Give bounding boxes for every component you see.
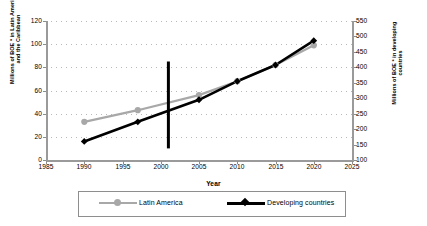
data-point-marker xyxy=(134,118,141,125)
series-line-1 xyxy=(84,41,313,142)
legend-label-developing-countries: Developing countries xyxy=(267,199,334,206)
legend-item-latin-america[interactable]: Latin America xyxy=(99,198,183,207)
legend-key-latin-america xyxy=(99,198,137,207)
chart-container: Millions of BOE * in Latin America and t… xyxy=(0,0,427,226)
data-point-marker xyxy=(81,138,88,145)
data-point-marker xyxy=(81,119,87,125)
chart-legend: Latin America Developing countries xyxy=(78,191,346,217)
legend-item-developing-countries[interactable]: Developing countries xyxy=(227,198,334,207)
circle-marker-icon xyxy=(114,199,121,206)
data-point-marker xyxy=(135,107,141,113)
diamond-marker-icon xyxy=(241,198,249,206)
legend-key-developing-countries xyxy=(227,198,265,207)
legend-label-latin-america: Latin America xyxy=(139,199,183,206)
series-line-0 xyxy=(84,45,313,122)
x-axis-title: Year xyxy=(0,180,427,187)
